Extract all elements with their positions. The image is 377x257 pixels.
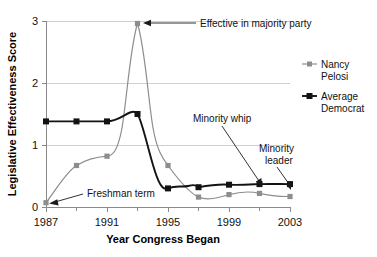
annotation-label-minority-whip: Minority whip [193, 113, 252, 124]
chart-legend: Nancy Pelosi Average Democrat [302, 59, 365, 114]
legend-label-nancy-pelosi-line2: Pelosi [321, 71, 348, 82]
data-point [135, 21, 140, 26]
chart-container: 0 1 2 3 1987 1991 1995 1999 2003 Year Co… [0, 0, 377, 257]
annotation-label-effective-majority: Effective in majority party [200, 18, 312, 29]
chart-figure: 0 1 2 3 1987 1991 1995 1999 2003 Year Co… [0, 0, 377, 257]
annotation-leader-line [222, 126, 259, 181]
y-tick-label-1: 1 [32, 139, 38, 151]
legend-marker-average-democrat [307, 93, 313, 99]
annotation-minority-leader: Minority leader [259, 143, 294, 190]
y-tick-label-2: 2 [32, 77, 38, 89]
data-point [287, 194, 292, 199]
axes [46, 21, 290, 207]
data-point [43, 200, 48, 205]
x-tick-label-1991: 1991 [95, 216, 119, 228]
annotation-leader-line [55, 194, 83, 202]
annotation-label-minority-leader-line2: leader [265, 155, 293, 166]
annotation-label-freshman-term: Freshman term [87, 188, 155, 199]
x-tick-label-2003: 2003 [278, 216, 302, 228]
y-tick-label-0: 0 [32, 201, 38, 213]
y-tick-label-3: 3 [32, 15, 38, 27]
legend-label-average-democrat-line2: Democrat [321, 103, 365, 114]
annotation-freshman-term: Freshman term [49, 188, 155, 206]
data-point [257, 191, 262, 196]
x-tick-label-1999: 1999 [217, 216, 241, 228]
legend-item-average-democrat[interactable]: Average Democrat [302, 91, 365, 114]
y-tick-marks [42, 21, 46, 207]
data-point [196, 184, 202, 190]
data-point [104, 118, 110, 124]
legend-marker-nancy-pelosi [307, 62, 312, 67]
gridlines [46, 21, 290, 145]
legend-item-nancy-pelosi[interactable]: Nancy Pelosi [302, 59, 349, 82]
x-tick-label-1987: 1987 [34, 216, 58, 228]
annotation-effective-majority: Effective in majority party [143, 18, 312, 29]
arrow-head-icon [49, 199, 59, 205]
series-line-average-democrat [46, 112, 290, 189]
data-point [74, 163, 79, 168]
data-point [104, 154, 109, 159]
series-markers-nancy-pelosi [43, 21, 292, 205]
x-tick-labels: 1987 1991 1995 1999 2003 [34, 216, 302, 228]
y-axis-title: Legislative Effectiveness Score [6, 32, 18, 196]
legend-label-nancy-pelosi-line1: Nancy [321, 59, 349, 70]
data-point [226, 182, 232, 188]
data-point [165, 163, 170, 168]
series-average-democrat [43, 111, 293, 191]
data-point [165, 185, 171, 191]
data-point [43, 118, 49, 124]
x-tick-marks [46, 207, 290, 212]
data-point [226, 192, 231, 197]
annotation-leader-line [277, 167, 289, 184]
legend-label-average-democrat-line1: Average [321, 91, 359, 102]
data-point [74, 118, 80, 124]
data-point [196, 195, 201, 200]
annotation-label-minority-leader-line1: Minority [259, 143, 294, 154]
annotation-minority-whip: Minority whip [193, 113, 262, 187]
data-point [135, 111, 141, 117]
series-nancy-pelosi [43, 21, 292, 205]
y-tick-labels: 0 1 2 3 [32, 15, 38, 213]
series-line-nancy-pelosi [46, 24, 290, 203]
x-axis-title: Year Congress Began [106, 233, 220, 245]
series-markers-average-democrat [43, 111, 293, 191]
x-tick-label-1995: 1995 [156, 216, 180, 228]
